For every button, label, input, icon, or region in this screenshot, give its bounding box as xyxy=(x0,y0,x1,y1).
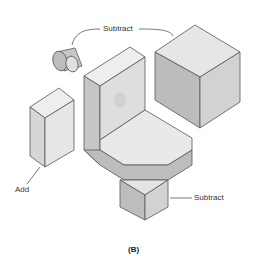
cube-shape xyxy=(155,25,240,128)
diagram-canvas xyxy=(0,0,256,256)
triangular-prism-shape xyxy=(120,180,168,220)
figure-caption: (B) xyxy=(128,246,139,254)
label-subtract-bottom: Subtract xyxy=(194,194,224,202)
leader-subtract-cube xyxy=(139,29,173,36)
leader-add xyxy=(27,167,40,184)
cylinder-shape xyxy=(51,48,82,73)
hex-prism-shape xyxy=(30,88,74,167)
leader-subtract-cylinder xyxy=(72,29,100,45)
label-subtract-top: Subtract xyxy=(103,25,133,33)
label-add: Add xyxy=(15,186,29,194)
